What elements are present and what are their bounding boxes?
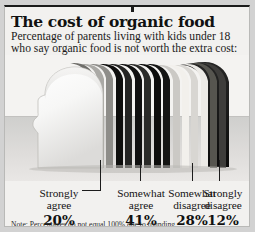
label-line2: agree <box>31 200 87 212</box>
value-strongly-disagree: 12% <box>195 212 250 227</box>
infographic-root: The cost of organic food Percentage of p… <box>0 0 255 232</box>
label-line1: Strongly <box>195 188 250 200</box>
footnote: Note: Percentages do not equal 100% due … <box>11 220 177 227</box>
category-labels: Strongly agree 20% Somewhat agree 41% So… <box>5 184 249 218</box>
label-line2: disagree <box>195 200 250 212</box>
label-line1: Strongly <box>31 188 87 200</box>
label-strongly-disagree: Strongly disagree 12% <box>195 188 250 227</box>
infographic-panel: The cost of organic food Percentage of p… <box>4 5 250 227</box>
